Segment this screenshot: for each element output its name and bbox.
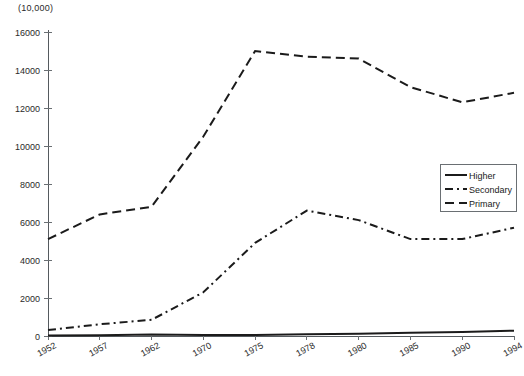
y-tick-label: 12000 — [15, 104, 40, 114]
x-tick-label: 1975 — [243, 340, 265, 358]
y-tick-label: 0 — [35, 332, 40, 342]
y-tick-label: 8000 — [20, 180, 40, 190]
y-tick-label: 14000 — [15, 66, 40, 76]
x-tick-label: 1990 — [450, 340, 472, 358]
legend-label-higher: Higher — [469, 171, 496, 181]
x-axis-tick-labels: 1952195719621970197519781980198519901994 — [35, 340, 523, 358]
chart-legend: HigherSecondaryPrimary — [440, 164, 516, 211]
series-line-secondary — [48, 211, 514, 331]
series-line-higher — [48, 331, 514, 336]
y-tick-label: 16000 — [15, 28, 40, 38]
y-tick-label: 10000 — [15, 142, 40, 152]
x-tick-label: 1994 — [501, 340, 523, 358]
y-axis-tick-labels: 0200040006000800010000120001400016000 — [15, 28, 40, 342]
x-tick-label: 1957 — [87, 340, 109, 358]
x-tick-label: 1980 — [346, 340, 368, 358]
y-tick-label: 2000 — [20, 294, 40, 304]
legend-label-primary: Primary — [469, 199, 500, 209]
x-tick-label: 1962 — [139, 340, 161, 358]
chart-container: (10,000) 0200040006000800010000120001400… — [0, 0, 524, 376]
y-tick-label: 6000 — [20, 218, 40, 228]
y-tick-label: 4000 — [20, 256, 40, 266]
x-tick-label: 1978 — [294, 340, 316, 358]
x-tick-label: 1985 — [398, 340, 420, 358]
legend-label-secondary: Secondary — [469, 185, 513, 195]
x-tick-label: 1952 — [35, 340, 57, 358]
line-chart-svg: 0200040006000800010000120001400016000 19… — [0, 0, 524, 376]
x-tick-label: 1970 — [191, 340, 213, 358]
